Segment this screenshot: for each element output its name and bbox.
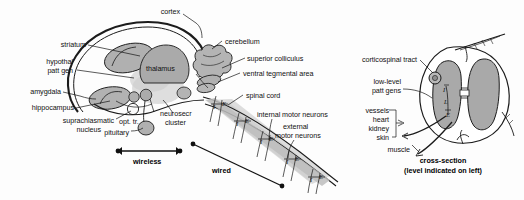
label-spinal-cord: spinal cord [246, 91, 280, 100]
brain-spinal-cord-diagram: thalamus [0, 0, 524, 200]
marker-external-5: E [318, 173, 323, 180]
label-cortex: cortex [161, 7, 181, 16]
label-target-skin: skin [376, 133, 389, 142]
label-opt-tr: opt. tr. [119, 117, 139, 126]
figure-canvas: thalamus [0, 0, 524, 200]
marker-external-4: E [294, 155, 299, 162]
label-hypothal-patt-gen-1: hypothal [46, 57, 73, 66]
marker-external-2: E [244, 117, 249, 124]
label-amygdala: amygdala [30, 87, 61, 96]
label-cerebellum: cerebellum [225, 37, 260, 46]
label-ventral-tegmental-area: ventral tegmental area [243, 69, 313, 78]
label-external-motor-neurons-2: motor neurons [275, 131, 321, 140]
label-neurosecr-2: cluster [165, 118, 186, 127]
optic-tract-circle [127, 103, 138, 114]
pituitary-bulb [138, 121, 154, 135]
label-pituitary: pituitary [104, 128, 129, 137]
label-target-kidney: kidney [369, 124, 390, 133]
label-suprachiasmatic-2: nucleus [77, 125, 102, 134]
label-hypothal-patt-gen-2: patt gen [47, 66, 73, 75]
label-target-vessels: vessels [365, 106, 389, 115]
marker-external-1: E [221, 100, 226, 107]
label-hippocampus: hippocampus [32, 103, 75, 112]
midbrain-blob [177, 87, 191, 99]
caption-cross-section-1: cross-section [420, 156, 467, 165]
label-low-level-patt-gens-2: patt gens [372, 86, 402, 95]
label-external-motor-neurons-1: external [283, 122, 309, 131]
label-suprachiasmatic-1: suprachiasmatic [63, 116, 115, 125]
label-neurosecr-1: neurosecr [160, 109, 192, 118]
label-superior-colliculus: superior colliculus [247, 54, 304, 63]
label-wired: wired [211, 166, 231, 175]
cross-section-panel: I L E [402, 34, 514, 156]
label-target-heart: heart [373, 115, 389, 124]
cerebellum-shape [193, 45, 232, 78]
label-wireless: wireless [132, 157, 161, 166]
label-striatum: striatum [61, 40, 86, 49]
label-low-level-patt-gens-1: low-level [373, 77, 401, 86]
label-internal-motor-neurons: internal motor neurons [257, 110, 328, 119]
marker-cs-l: L [443, 98, 448, 105]
label-muscle: muscle [388, 145, 411, 154]
label-corticospinal-tract: corticospinal tract [362, 55, 417, 64]
label-thalamus: thalamus [146, 64, 175, 73]
wireless-arrow: wireless [116, 147, 183, 166]
caption-cross-section-2: (level indicated on left) [404, 166, 482, 175]
nucleus-blob-a [129, 92, 139, 102]
